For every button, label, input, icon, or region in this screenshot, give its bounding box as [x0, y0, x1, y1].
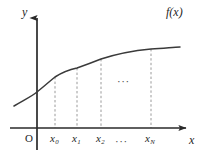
tick-label-xn: xN: [145, 133, 155, 146]
dashed-ordinate-lines: [55, 49, 151, 128]
tick-subscript-xn: N: [150, 138, 155, 145]
tick-subscript-x1: 1: [77, 138, 80, 145]
tick-subscript-x2: 2: [101, 138, 104, 145]
origin-label: O: [25, 133, 33, 144]
axis-ellipsis: ···: [115, 136, 128, 147]
tick-label-x1: x1: [72, 133, 81, 146]
function-partition-figure: f(x) y x O x0 x1 x2 ··· xN ···: [0, 0, 203, 162]
tick-label-x2: x2: [96, 133, 105, 146]
function-curve: [14, 47, 180, 106]
x-axis-label: x: [189, 134, 194, 146]
tick-subscript-x0: 0: [55, 138, 58, 145]
upper-ellipsis: ···: [117, 76, 130, 87]
tick-label-x0: x0: [50, 133, 59, 146]
function-label: f(x): [166, 6, 183, 18]
y-axis-label: y: [22, 6, 27, 18]
